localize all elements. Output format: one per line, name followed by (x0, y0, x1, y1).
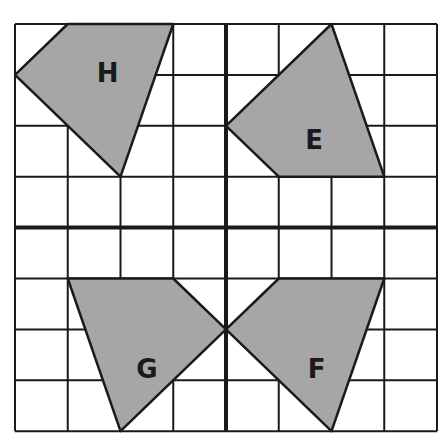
shape-h (15, 24, 173, 177)
shape-label-f: F (308, 354, 326, 384)
shape-label-g: G (136, 354, 157, 384)
shape-f (226, 279, 384, 432)
shape-label-h: H (97, 58, 119, 88)
coordinate-grid-diagram: HEGF (0, 0, 443, 444)
shape-label-e: E (305, 125, 323, 155)
